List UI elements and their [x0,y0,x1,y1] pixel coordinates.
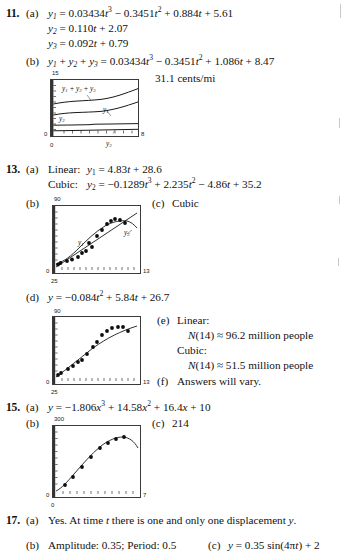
problem-11-eq-sum: y1 + y2 + y3 = 0.03434t3 − 0.3451t2 + 1.… [48,55,274,68]
page-edge-mark-lower [339,196,340,204]
chart-13d-svg [53,317,140,384]
chart-11b-label-sum: y1 + y2 + y3 [62,85,96,93]
chart-11b-x-min-label: 0 [50,142,53,148]
problem-15-part-c-label: (c) [152,417,164,430]
chart-15b-plot [52,425,141,498]
problem-15-part-a-eq: y = −1.806x3 + 14.58x2 + 16.4x + 10 [48,401,211,414]
chart-15b-x-max-label: 7 [143,492,146,498]
page-edge-mark-top [340,4,341,18]
problem-number-15: 15. [6,401,20,414]
chart-13d-y-min-label: 0 [46,379,49,385]
chart-15b-x-ticks [63,491,133,494]
problem-13-linear-eq: y1 = 4.83t + 28.6 [87,163,162,176]
problem-13-part-a-label: (a) [26,163,38,176]
problem-11-eq1-rhs: = 0.03434t3 − 0.3451t2 + 0.884t + 5.61 [59,7,233,19]
problem-13-e-linear-value: N(14) ≈ 96.2 million people [188,329,313,342]
problem-17-part-b-label: (b) [26,539,39,552]
chart-13b-plot [52,205,141,274]
problem-17-part-a-text: Yes. At time t there is one and only one… [48,514,296,527]
answer-key-page: 11. (a) y1 = 0.03434t3 − 0.3451t2 + 0.88… [0,0,349,556]
chart-15b-x-min-label: 0 [51,502,54,508]
chart-15b-y-ticks [55,432,57,484]
chart-13b-y-axis [53,206,55,273]
chart-15b-y-min-label: 0 [46,492,49,498]
chart-13b-y-max-label: 90 [54,196,61,202]
problem-17-part-c-eq: y = 0.35 sin(4πt) + 2 [228,539,320,552]
problem-number-11: 11. [6,7,19,20]
chart-15b-points [63,435,126,487]
problem-11-eq2: y2 = 0.110t + 2.07 [48,22,128,35]
problem-13-part-c-label: (c) [152,197,164,210]
problem-13-part-d-label: (d) [26,291,39,304]
chart-11b-leader-lines [87,95,115,134]
chart-11b-label-y2: y2 [59,115,65,123]
chart-13b-x-ticks [62,267,134,270]
chart-13d-x-min-label: 25 [51,389,58,395]
problem-13-part-d-eq: y = −0.084t2 + 5.84t + 26.7 [48,291,169,304]
chart-11b-x-max-label: 8 [141,131,144,137]
chart-13b-points [56,217,127,266]
chart-15b-svg [53,426,140,497]
problem-11-eq2-lhs: y2 [48,22,57,34]
chart-11b-y-ticks [53,86,56,130]
chart-13d-plot [52,316,141,385]
problem-13-e-cubic-value: N(14) ≈ 51.5 million people [188,359,313,372]
chart-13d-x-ticks [62,378,134,381]
problem-15-part-a-label: (a) [26,401,38,414]
chart-11b-y-axis [51,80,53,136]
problem-number-13: 13. [6,163,20,176]
chart-11b-label-y3: y3 [106,140,112,148]
problem-13-cubic-label: Cubic: [48,178,78,191]
problem-11-eq1-lhs: y1 [48,7,57,19]
page-edge-mark-bottom [338,258,339,266]
chart-13d-y-axis [53,317,55,384]
problem-13-linear-label: Linear: [48,163,80,176]
problem-13-cubic-eq: y2 = −0.1289t3 + 2.235t2 − 4.86t + 35.2 [87,178,262,191]
chart-13b-x-max-label: 13 [143,268,150,274]
chart-15b-series-cubic [56,437,138,491]
problem-15-part-b-label: (b) [26,417,39,430]
chart-11b-series-y1 [53,102,138,115]
chart-13b-label-y1: y1 [78,239,84,247]
problem-11-eq3: y3 = 0.092t + 0.79 [48,37,128,50]
chart-11b-y-min-label: 0 [44,131,47,137]
problem-number-17: 17. [6,514,20,527]
problem-11-eq2-rhs: = 0.110t + 2.07 [59,22,127,34]
chart-13d-y-ticks [55,323,57,371]
chart-13b-x-min-label: 25 [51,278,58,284]
problem-13-part-e-label: (e) [157,314,169,327]
chart-11b-label-y1: y1 [103,106,109,114]
problem-11-note: 31.1 cents/mi [155,72,215,85]
chart-13d-x-max-label: 13 [143,379,150,385]
problem-17-part-c-label: (c) [208,539,220,552]
problem-13-part-b-label: (b) [26,197,39,210]
problem-13-part-f-label: (f) [157,375,168,388]
chart-13b-y-ticks [55,212,57,260]
chart-13b-label-y2: y2 [124,229,130,237]
problem-13-part-f-text: Answers will vary. [177,375,261,388]
chart-13d-y-max-label: 90 [54,308,61,314]
chart-11b-series-y2 [53,124,138,126]
problem-15-part-c-text: 214 [172,417,189,430]
problem-13-e-cubic-label: Cubic: [177,344,207,357]
chart-15b-y-max-label: 300 [54,416,64,422]
problem-13-e-linear-label: Linear: [177,314,209,327]
problem-11-eq3-rhs: = 0.092t + 0.79 [59,37,128,49]
problem-11-part-b-label: (b) [26,55,39,68]
problem-13-part-c-text: Cubic [172,197,199,210]
problem-17-part-b-text: Amplitude: 0.35; Period: 0.5 [48,539,176,552]
page-edge-mark-mid [339,118,340,128]
problem-11-part-a-label: (a) [26,7,38,20]
chart-13b-y-min-label: 0 [46,268,49,274]
problem-17-part-a-label: (a) [26,514,38,527]
problem-11-eq3-lhs: y3 [48,37,57,49]
chart-13b-svg [53,206,140,273]
chart-13b-series-cubic [56,221,137,264]
chart-15b-y-axis [53,426,55,497]
problem-11-eq1: y1 = 0.03434t3 − 0.3451t2 + 0.884t + 5.6… [48,7,233,20]
chart-11b-series-y3 [53,129,138,131]
chart-11b-y-max-label: 15 [52,70,59,76]
